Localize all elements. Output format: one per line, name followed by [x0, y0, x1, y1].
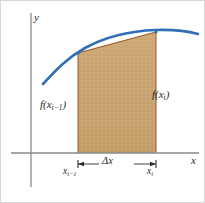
- fn-left-subscript: i−1: [52, 103, 63, 112]
- y-axis-label: y: [34, 12, 39, 23]
- tick-left-subscript: i−1: [67, 170, 76, 177]
- tick-label-left: xi−1: [63, 167, 77, 177]
- delta-x-dimension: [78, 160, 156, 168]
- fn-right-suffix: ): [166, 88, 170, 100]
- tick-label-right: xi: [147, 167, 153, 177]
- delta-x-label: Δx: [102, 156, 113, 167]
- fn-right-prefix: f(x: [152, 88, 164, 100]
- right-curve-point: [154, 30, 157, 33]
- fn-left-suffix: ): [62, 98, 66, 110]
- x-axis-label: x: [191, 155, 196, 166]
- figure-container: y x f(xi−1) f(xi) Δx xi−1 xi: [0, 0, 205, 203]
- function-value-right-label: f(xi): [152, 89, 169, 102]
- diagram-canvas: [1, 1, 205, 203]
- tick-right-subscript: i: [151, 170, 153, 177]
- function-value-left-label: f(xi−1): [40, 99, 66, 112]
- shaded-region: [78, 32, 156, 153]
- fn-left-prefix: f(x: [40, 98, 52, 110]
- left-curve-point: [76, 51, 79, 54]
